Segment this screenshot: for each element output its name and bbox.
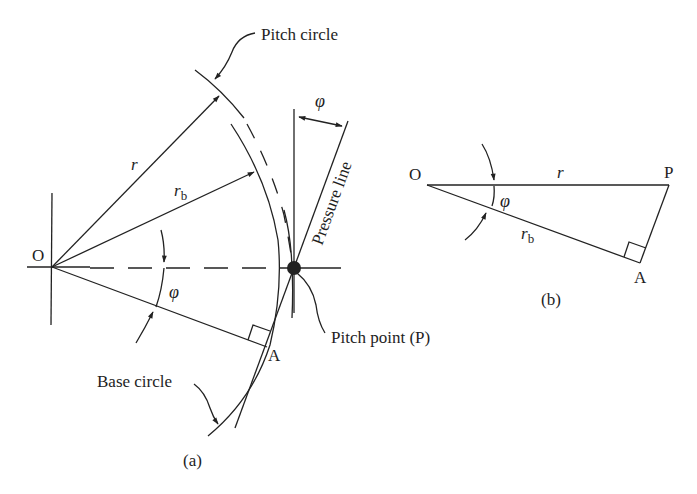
phi-center-arc-bottom (136, 312, 153, 343)
pitch-point-dot (287, 261, 301, 275)
label-pitch-point: Pitch point (P) (331, 328, 430, 347)
gear-pitch-geometry-diagram: O r rb φ φ A Pitch circle Base circle Pr… (0, 0, 697, 494)
label-hypotenuse-r: r (557, 163, 564, 182)
phi-arc-b-bottom (465, 213, 486, 240)
figure-b (427, 144, 669, 263)
caption-a: (a) (183, 451, 202, 470)
label-leg-rb-sub: b (528, 231, 535, 246)
label-leg-rb: rb (521, 224, 534, 246)
radius-r-line (52, 96, 219, 267)
label-base-circle: Base circle (97, 372, 172, 391)
label-phi-top: φ (315, 91, 325, 111)
phi-arc-b-body (492, 186, 494, 206)
pitch-circle-leader (215, 33, 255, 79)
label-phi-center: φ (169, 282, 179, 302)
caption-b: (b) (541, 290, 561, 309)
label-base-radius: rb (174, 181, 187, 203)
label-tangent-point-a: A (268, 346, 281, 365)
base-circle-arc (208, 124, 279, 436)
pitch-circle-dashed-arc (247, 124, 293, 268)
label-pressure-line: Pressure line (308, 159, 356, 248)
phi-center-arc-body (156, 268, 164, 307)
pitch-point-leader (297, 273, 325, 333)
base-circle-leader (194, 384, 218, 424)
triangle-side-pa (640, 185, 669, 263)
label-base-radius-sub: b (181, 188, 188, 203)
label-radius-r: r (131, 155, 138, 174)
phi-center-arc-top (161, 230, 164, 262)
phi-top-angle-arrow (299, 117, 342, 126)
label-vertex-p: P (664, 163, 673, 182)
figure-a (27, 33, 348, 436)
triangle-side-oa (427, 185, 640, 263)
label-phi-b: φ (500, 191, 510, 211)
label-pitch-circle: Pitch circle (261, 25, 338, 44)
label-o-center: O (32, 246, 44, 265)
base-radius-line (52, 172, 254, 267)
phi-arc-b-top (482, 144, 494, 180)
right-angle-marker-a (248, 325, 270, 340)
vertical-axis-o (51, 193, 52, 325)
pitch-circle-arc (195, 70, 244, 118)
label-vertex-a: A (634, 268, 647, 287)
label-vertex-o: O (409, 165, 421, 184)
line-o-to-a (52, 267, 267, 347)
